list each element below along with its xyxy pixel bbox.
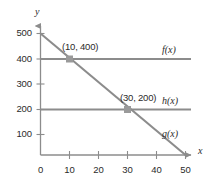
y-tick-label-300: 300 (0, 78, 32, 89)
y-tick-label-200: 200 (0, 103, 32, 114)
x-tick-label-50: 50 (175, 164, 196, 175)
chart-figure: 100 200 300 400 500 0 10 20 30 40 50 y x… (0, 0, 212, 183)
x-tick-label-0: 0 (30, 164, 51, 175)
y-tick-label-500: 500 (0, 27, 32, 38)
series-label-f: f(x) (162, 44, 176, 55)
series-label-g: g(x) (162, 128, 178, 139)
x-tick-label-10: 10 (59, 164, 80, 175)
intersection-marker-lower (124, 106, 131, 113)
intersection-marker-upper (66, 56, 73, 63)
point-label-lower: (30, 200) (120, 92, 156, 103)
series-label-h: h(x) (162, 95, 178, 106)
y-tick-label-100: 100 (0, 128, 32, 139)
x-tick-label-40: 40 (146, 164, 167, 175)
y-tick-label-400: 400 (0, 53, 32, 64)
y-axis-label: y (35, 6, 39, 17)
point-label-upper: (10, 400) (62, 41, 98, 52)
x-tick-label-20: 20 (88, 164, 109, 175)
x-axis-label: x (198, 145, 202, 156)
x-tick-label-30: 30 (117, 164, 138, 175)
